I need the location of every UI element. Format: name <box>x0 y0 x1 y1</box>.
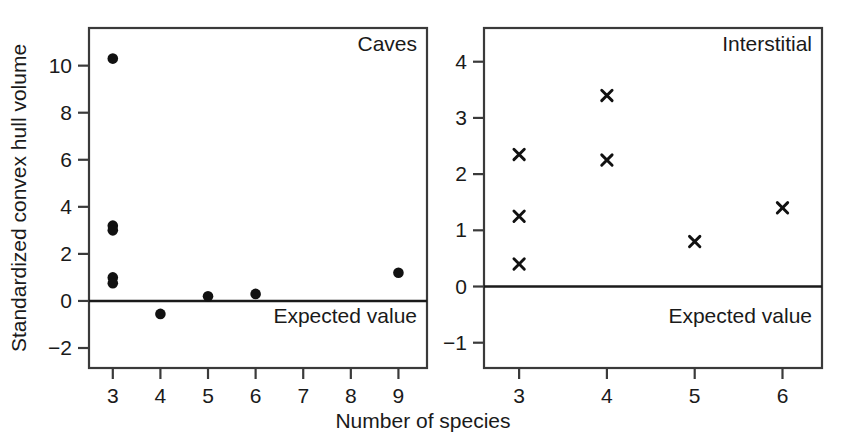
y-tick-label: 4 <box>60 195 72 218</box>
x-tick-label: 9 <box>393 384 405 407</box>
panel-caves-title: Caves <box>357 32 417 55</box>
data-point-cross <box>602 155 612 165</box>
data-point-circle <box>250 289 261 300</box>
figure-container: −20246810 3456789 Caves Expected value −… <box>0 0 846 443</box>
y-tick-label: 0 <box>60 289 72 312</box>
data-point-cross <box>514 149 524 159</box>
x-tick-label: 4 <box>155 384 167 407</box>
panel-interstitial-points <box>514 90 788 269</box>
x-tick-label: 5 <box>689 384 701 407</box>
x-tick-label: 8 <box>345 384 357 407</box>
x-tick-label: 3 <box>107 384 119 407</box>
panel-interstitial-expected-label: Expected value <box>668 304 812 327</box>
data-point-circle <box>393 267 404 278</box>
y-tick-label: 0 <box>455 275 467 298</box>
y-tick-label: 4 <box>455 50 467 73</box>
x-tick-label: 6 <box>777 384 789 407</box>
data-point-circle <box>108 225 119 236</box>
y-tick-label: 3 <box>455 106 467 129</box>
y-tick-label: 10 <box>49 54 72 77</box>
data-point-cross <box>690 236 700 246</box>
panel-caves-y-ticks: −20246810 <box>48 54 89 359</box>
data-point-circle <box>203 291 214 302</box>
panel-caves: −20246810 3456789 Caves Expected value <box>48 28 427 407</box>
panel-interstitial-title: Interstitial <box>722 32 812 55</box>
x-tick-label: 4 <box>601 384 613 407</box>
y-tick-label: −1 <box>443 331 467 354</box>
data-point-circle <box>108 53 119 64</box>
x-tick-label: 7 <box>297 384 309 407</box>
data-point-cross <box>777 203 787 213</box>
y-axis-title: Standardized convex hull volume <box>7 44 30 352</box>
data-point-circle <box>108 278 119 289</box>
data-point-cross <box>514 211 524 221</box>
panel-interstitial-y-ticks: −101234 <box>443 50 484 354</box>
panel-interstitial-x-ticks: 3456 <box>513 368 788 407</box>
y-tick-label: 8 <box>60 101 72 124</box>
y-tick-label: 2 <box>60 242 72 265</box>
data-point-cross <box>602 90 612 100</box>
x-tick-label: 3 <box>513 384 525 407</box>
scatter-figure: −20246810 3456789 Caves Expected value −… <box>0 0 846 443</box>
y-tick-label: 1 <box>455 218 467 241</box>
y-tick-label: −2 <box>48 336 72 359</box>
panel-caves-x-ticks: 3456789 <box>107 368 404 407</box>
x-tick-label: 6 <box>250 384 262 407</box>
panel-interstitial: −101234 3456 Interstitial Expected value <box>443 28 822 407</box>
y-tick-label: 6 <box>60 148 72 171</box>
panel-caves-expected-label: Expected value <box>273 304 417 327</box>
y-tick-label: 2 <box>455 162 467 185</box>
data-point-cross <box>514 259 524 269</box>
x-tick-label: 5 <box>202 384 214 407</box>
x-axis-title: Number of species <box>335 409 510 432</box>
panel-caves-points <box>108 53 404 319</box>
data-point-circle <box>155 309 166 320</box>
